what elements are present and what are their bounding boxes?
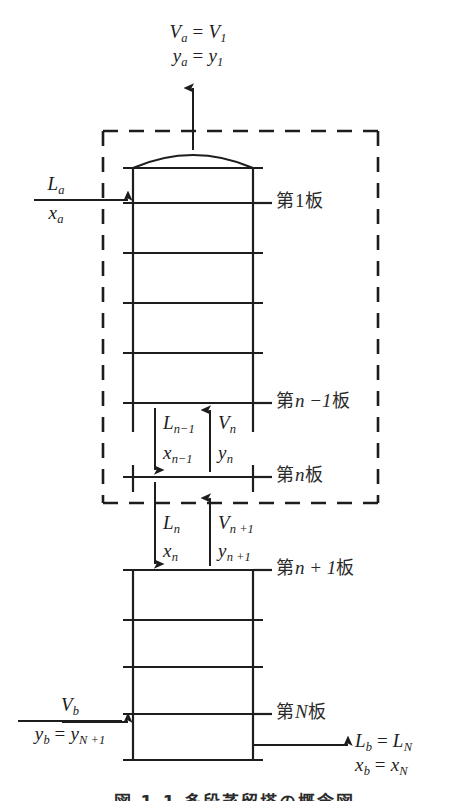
lower-column-shell [123,570,263,760]
fraction-bar-feed-bottom [18,720,122,722]
label-internal-vapor-ynp1: yn +1 [218,541,251,565]
label-bottom-vapor-feed: Vb yb = yN +1 [14,694,126,748]
distillation-column-figure: Va = V1 ya = y1 La xa Ln−1 xn−1 Vn yn Ln… [0,0,469,801]
label-xa: xa [30,202,82,227]
label-top-liquid-feed: La xa [30,173,82,227]
lower-trays [123,570,263,714]
label-internal-vapor-yn: yn [218,443,233,467]
label-internal-vapor-Vn: Vn [218,413,236,437]
label-Vb: Vb [14,694,126,719]
control-volume-envelope [103,131,378,503]
fraction-bar-feed-top [34,199,78,201]
tray-label-n: 第n板 [276,465,324,486]
label-yb-eq: yb = yN +1 [14,723,126,748]
label-top-vapor-stream: Va = V1 ya = y1 [143,22,253,69]
figure-caption: 図 1.1 多段蒸留塔の概念図 [0,788,469,801]
tray-label-n-minus-1: 第n −1板 [276,391,351,412]
label-internal-liquid-xn: xn [163,541,178,565]
label-bottom-liquid-out: Lb = LN xb = xN [355,731,412,778]
label-internal-liquid-xn1: xn−1 [163,443,193,467]
middle-tray-n [123,465,263,492]
label-top-vapor-line1: Va = V1 [143,22,253,46]
tray-label-n-plus-1: 第n + 1板 [276,558,355,579]
label-bottom-out-line1: Lb = LN [355,731,412,755]
label-bottom-out-line2: xb = xN [355,755,412,779]
label-internal-liquid-Ln: Ln [163,513,180,537]
upper-column-shell [123,155,263,432]
tray-label-N: 第N板 [276,702,327,723]
label-internal-vapor-Vnp1: Vn +1 [218,513,254,537]
label-La: La [30,173,82,198]
tray-label-ticks [253,203,272,714]
label-internal-liquid-Ln1: Ln−1 [163,413,195,437]
label-top-vapor-line2: ya = y1 [143,46,253,70]
tray-label-1: 第1板 [276,191,324,212]
upper-trays [123,203,263,403]
diagram-canvas [0,0,469,801]
